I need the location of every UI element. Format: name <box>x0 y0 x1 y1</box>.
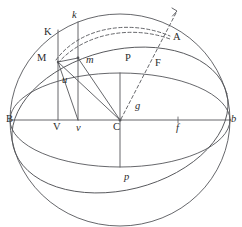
label-m: m <box>86 55 94 66</box>
radius-line-C-M <box>58 62 120 120</box>
label-P: P <box>125 53 131 64</box>
dashed-ray-C-g-F-A <box>121 13 176 119</box>
label-p: p <box>124 172 129 183</box>
label-C: C <box>113 122 120 133</box>
label-B: B <box>6 114 13 125</box>
label-M: M <box>37 53 46 64</box>
label-A: A <box>173 32 181 43</box>
label-v: v <box>76 123 81 134</box>
chord-line-M-v <box>58 62 78 120</box>
radius-line-C-m <box>78 58 120 120</box>
dashed-ray-arrow-head <box>172 8 177 16</box>
diagram-canvas <box>0 0 242 227</box>
dashed-arc-outer-M-to-A <box>56 27 170 60</box>
label-V: V <box>53 122 61 133</box>
label-g: g <box>135 101 140 112</box>
label-f: f <box>176 123 179 134</box>
label-b: b <box>231 114 236 125</box>
label-u: u <box>62 75 67 86</box>
point-dot-M <box>57 61 59 63</box>
label-k: k <box>72 10 77 21</box>
geometric-diagram: K k A M m P F u g B V v C f b p <box>0 0 242 227</box>
label-F: F <box>155 58 161 69</box>
label-K: K <box>44 27 52 38</box>
point-dot-m <box>77 57 80 60</box>
